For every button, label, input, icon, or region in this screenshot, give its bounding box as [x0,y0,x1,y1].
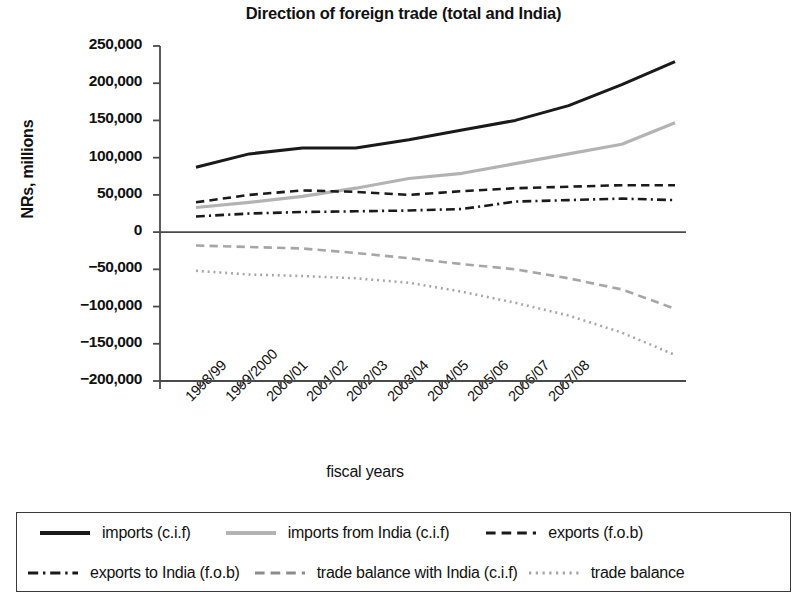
legend-item[interactable]: imports from India (c.i.f) [225,524,450,542]
legend-swatch-dashed [485,526,537,540]
legend-item[interactable]: exports (f.o.b) [485,524,643,542]
legend-item[interactable]: trade balance with India (c.i.f) [254,564,518,582]
plot-area [0,0,807,500]
legend-label: trade balance [591,564,685,582]
legend-label: imports (c.i.f) [102,524,191,542]
legend-row-bottom: exports to India (f.o.b)trade balance wi… [17,553,800,593]
legend-label: trade balance with India (c.i.f) [317,564,518,582]
series-line [196,271,675,355]
legend-item[interactable]: imports (c.i.f) [39,524,191,542]
legend-item[interactable]: trade balance [528,564,685,582]
legend-swatch-dashdot [27,566,79,580]
legend-label: exports to India (f.o.b) [90,564,240,582]
legend-swatch-dashed [254,566,306,580]
chart-legend: imports (c.i.f)imports from India (c.i.f… [16,512,791,592]
legend-label: exports (f.o.b) [548,524,643,542]
legend-swatch-dotted [528,566,580,580]
legend-row-top: imports (c.i.f)imports from India (c.i.f… [17,513,807,553]
legend-swatch-solid [225,526,277,540]
series-line [196,246,675,309]
chart-figure: Direction of foreign trade (total and In… [0,0,807,606]
legend-item[interactable]: exports to India (f.o.b) [27,564,240,582]
legend-swatch-solid [39,526,91,540]
series-line [196,62,675,168]
legend-label: imports from India (c.i.f) [288,524,450,542]
